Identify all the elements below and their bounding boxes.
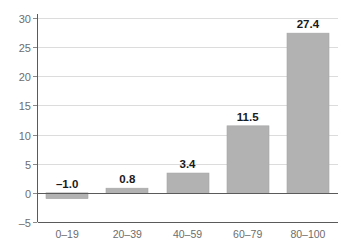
- chart-canvas: 302520151050–5 –1.00.83.411.527.4 0–1920…: [0, 0, 346, 248]
- x-category-label: 20–39: [113, 228, 142, 240]
- bar: [167, 173, 209, 193]
- y-tick-label: 20: [19, 71, 31, 83]
- bar: [106, 188, 148, 193]
- y-tick-label: –5: [19, 217, 31, 229]
- y-tick-label: 5: [25, 159, 31, 171]
- bar-value-label: 3.4: [180, 158, 197, 170]
- x-category-label: 60–79: [233, 228, 262, 240]
- x-category-label: 40–59: [173, 228, 202, 240]
- x-category-label: 80–100: [290, 228, 325, 240]
- bar-value-label: 0.8: [119, 173, 136, 185]
- y-tick-label: 15: [19, 100, 31, 112]
- y-tick-label: 30: [19, 13, 31, 25]
- bar: [287, 33, 329, 193]
- x-category-label: 0–19: [55, 228, 79, 240]
- bar-value-label: –1.0: [56, 178, 78, 190]
- bar: [227, 126, 269, 193]
- y-tick-label: 0: [25, 188, 31, 200]
- bar-value-label: 27.4: [297, 18, 320, 30]
- bar-value-label: 11.5: [237, 111, 259, 123]
- y-tick-label: 25: [19, 42, 31, 54]
- y-tick-label: 10: [19, 130, 31, 142]
- bar-chart-figure: 302520151050–5 –1.00.83.411.527.4 0–1920…: [0, 0, 346, 248]
